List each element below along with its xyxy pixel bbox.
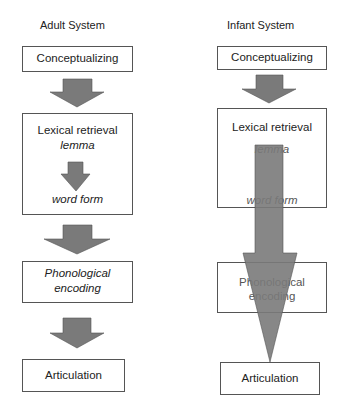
- infant-big-arrow-layer: [0, 0, 346, 414]
- infant-arrow-bypass-lexical-to-articulation-icon: [243, 145, 297, 362]
